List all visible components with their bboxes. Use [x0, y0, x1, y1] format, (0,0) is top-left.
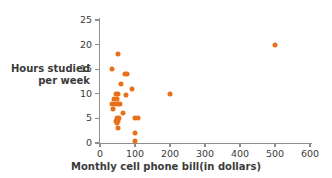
- x-tick-200: [169, 143, 170, 147]
- y-axis-title-line1: Hours studied: [2, 63, 90, 75]
- x-tick-0: [99, 143, 100, 147]
- data-point: [133, 138, 138, 143]
- data-point: [273, 42, 278, 47]
- y-tick-label-10: 10: [74, 89, 92, 99]
- x-tick-300: [204, 143, 205, 147]
- data-point: [118, 101, 123, 106]
- data-point: [124, 92, 129, 97]
- y-tick-25: [95, 19, 99, 20]
- y-tick-label-20: 20: [74, 40, 92, 50]
- y-axis-title-line2: per week: [2, 75, 90, 87]
- y-tick-10: [95, 93, 99, 94]
- scatter-plot-figure: 05101520250100200300400500600 Hours stud…: [0, 0, 332, 178]
- data-point: [111, 106, 116, 111]
- x-tick-label-0: 0: [85, 149, 115, 159]
- x-tick-label-100: 100: [120, 149, 150, 159]
- data-point: [125, 72, 130, 77]
- data-point: [115, 52, 120, 57]
- data-point: [120, 111, 125, 116]
- data-point: [135, 116, 140, 121]
- y-tick-0: [95, 142, 99, 143]
- data-point: [129, 86, 134, 91]
- y-tick-20: [95, 44, 99, 45]
- x-tick-600: [309, 143, 310, 147]
- y-tick-label-0: 0: [74, 138, 92, 148]
- plot-data-area: [100, 20, 310, 143]
- y-tick-label-5: 5: [74, 113, 92, 123]
- y-axis-title: Hours studied per week: [2, 63, 90, 86]
- data-point: [119, 81, 124, 86]
- data-point: [133, 131, 138, 136]
- data-point: [115, 126, 120, 131]
- x-tick-label-400: 400: [225, 149, 255, 159]
- x-axis-title: Monthly cell phone bill(in dollars): [0, 161, 332, 172]
- y-tick-15: [95, 69, 99, 70]
- x-tick-label-500: 500: [260, 149, 290, 159]
- data-point: [168, 91, 173, 96]
- data-point: [110, 67, 115, 72]
- x-tick-500: [274, 143, 275, 147]
- y-tick-label-25: 25: [74, 15, 92, 25]
- y-tick-5: [95, 118, 99, 119]
- x-tick-100: [134, 143, 135, 147]
- x-tick-label-300: 300: [190, 149, 220, 159]
- x-tick-label-200: 200: [155, 149, 185, 159]
- x-tick-400: [239, 143, 240, 147]
- x-tick-label-600: 600: [295, 149, 325, 159]
